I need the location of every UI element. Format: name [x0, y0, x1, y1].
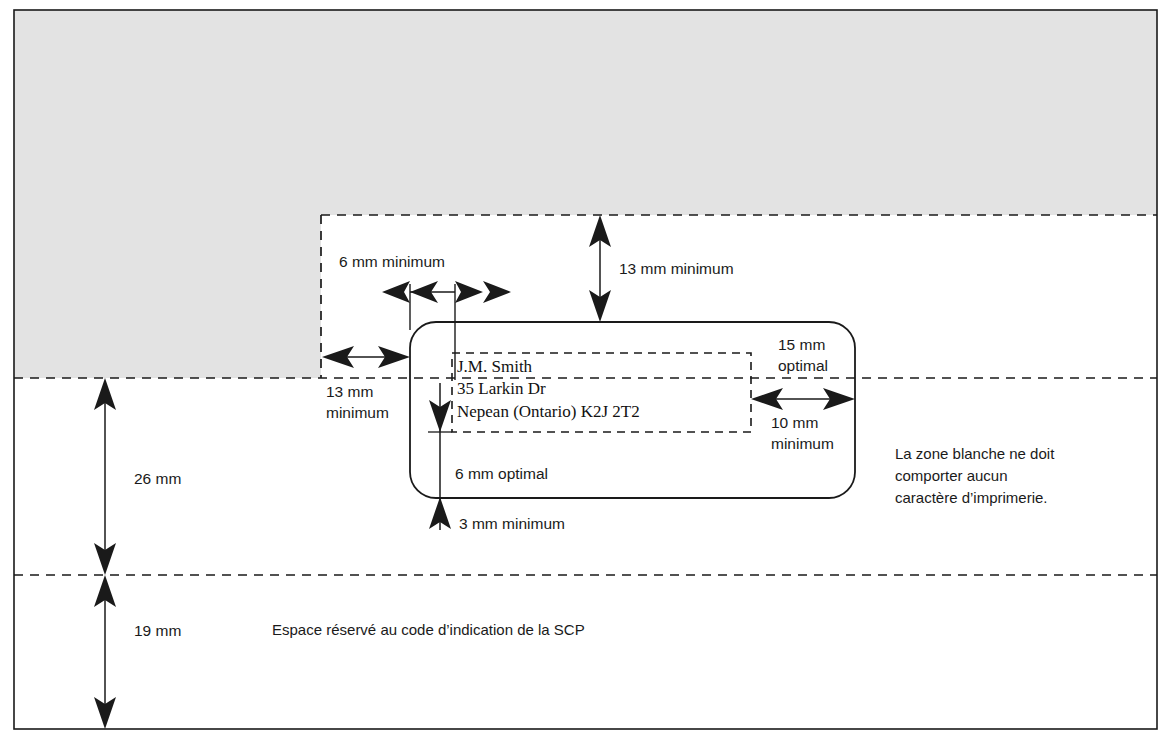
- label-26mm: 26 mm: [134, 470, 181, 487]
- label-6mm-optimal: 6 mm optimal: [455, 465, 548, 482]
- sample-address: J.M. Smith 35 Larkin Dr Nepean (Ontario)…: [457, 357, 640, 421]
- envelope-zone-diagram: 6 mm minimum 13 mm minimum 13 mm minimum…: [0, 0, 1172, 748]
- label-10mm-minimum-line1: 10 mm: [771, 414, 818, 431]
- label-3mm-minimum: 3 mm minimum: [459, 515, 565, 532]
- address-line-1: J.M. Smith: [457, 357, 533, 376]
- label-13mm-minimum-top: 13 mm minimum: [619, 260, 734, 277]
- label-13mm-minimum-left-line1: 13 mm: [326, 383, 373, 400]
- label-barcode-reserved-space: Espace réservé au code d’indication de l…: [272, 621, 585, 638]
- label-19mm: 19 mm: [134, 622, 181, 639]
- label-white-zone-note-line3: caractère d’imprimerie.: [895, 489, 1048, 506]
- label-white-zone-note-line2: comporter aucun: [895, 467, 1008, 484]
- address-line-3: Nepean (Ontario) K2J 2T2: [457, 402, 640, 421]
- dimension-13mm-minimum-top: [589, 215, 611, 322]
- label-15mm-optimal-line2: optimal: [778, 357, 828, 374]
- dimension-13mm-minimum-left: [322, 346, 410, 368]
- label-white-zone-note-line1: La zone blanche ne doit: [895, 445, 1055, 462]
- dimension-10mm-minimum-right: [751, 388, 855, 410]
- dimension-3mm-minimum: [429, 497, 451, 530]
- address-line-2: 35 Larkin Dr: [457, 379, 546, 398]
- label-6mm-minimum-top: 6 mm minimum: [339, 253, 445, 270]
- label-10mm-minimum-line2: minimum: [771, 435, 834, 452]
- label-13mm-minimum-left-line2: minimum: [326, 404, 389, 421]
- label-15mm-optimal-line1: 15 mm: [778, 336, 825, 353]
- dimension-6mm-optimal: [428, 383, 452, 497]
- dimension-26mm: [94, 378, 116, 575]
- dimension-19mm: [94, 575, 116, 729]
- diagram-canvas: 6 mm minimum 13 mm minimum 13 mm minimum…: [0, 0, 1172, 748]
